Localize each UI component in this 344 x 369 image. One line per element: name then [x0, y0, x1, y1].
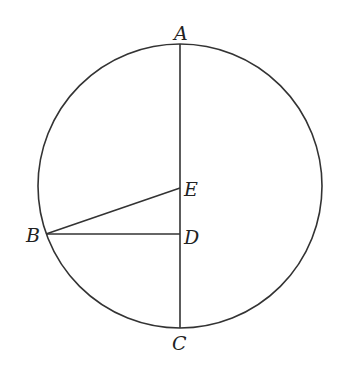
geometry-diagram: A B C D E [0, 0, 344, 369]
label-c: C [172, 332, 187, 354]
label-b: B [25, 224, 40, 246]
label-a: A [172, 22, 188, 44]
label-e: E [183, 178, 198, 200]
label-d: D [183, 226, 199, 248]
segment-be [46, 188, 180, 234]
